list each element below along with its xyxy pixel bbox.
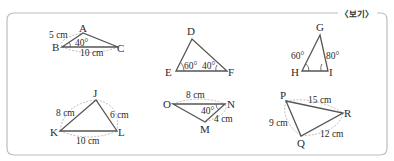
side-jl: 6 cm	[110, 110, 129, 120]
triangle-def: D E F 60° 40°	[165, 25, 234, 78]
vertex-e: E	[165, 66, 172, 78]
side-pq: 9 cm	[269, 118, 288, 128]
vertex-n: N	[227, 98, 235, 110]
vertex-f: F	[228, 66, 234, 78]
side-jk: 8 cm	[56, 108, 75, 118]
vertex-o: O	[163, 98, 171, 110]
side-qr: 12 cm	[320, 129, 344, 139]
vertex-g: G	[316, 21, 324, 33]
vertex-m: M	[200, 123, 210, 135]
side-pr: 15 cm	[308, 95, 332, 105]
triangle-jkl: J K L 8 cm 6 cm 10 cm	[50, 87, 129, 146]
vertex-p: P	[280, 89, 286, 101]
angle-f: 40°	[202, 61, 216, 71]
vertex-h: H	[291, 66, 299, 78]
triangle-ghi: G H I 60° 80°	[291, 21, 340, 78]
vertex-l: L	[118, 126, 125, 138]
vertex-b: B	[52, 41, 59, 53]
example-box: 〈보기〉 A B C 5 cm 40° 10 cm D E F 60° 40° …	[0, 0, 394, 161]
angle-e: 60°	[184, 61, 198, 71]
box-label: 〈보기〉	[340, 9, 374, 19]
side-ab: 5 cm	[49, 30, 68, 40]
angle-i: 80°	[326, 51, 340, 61]
side-bc: 10 cm	[80, 48, 104, 58]
angle-h: 60°	[291, 51, 305, 61]
vertex-i: I	[329, 66, 333, 78]
vertex-d: D	[187, 25, 195, 37]
triangle-pqr: P Q R 15 cm 9 cm 12 cm	[269, 89, 352, 149]
vertex-j: J	[93, 87, 98, 99]
vertex-c: C	[117, 42, 124, 54]
angle-b: 40°	[75, 38, 89, 48]
angle-n: 40°	[201, 106, 215, 116]
side-on: 8 cm	[186, 90, 205, 100]
side-mn: 4 cm	[214, 114, 233, 124]
triangle-omn: O N M 8 cm 40° 4 cm	[163, 90, 235, 135]
vertex-a: A	[79, 22, 87, 34]
side-kl: 10 cm	[76, 136, 100, 146]
triangle-abc: A B C 5 cm 40° 10 cm	[49, 22, 124, 58]
vertex-r: R	[344, 107, 352, 119]
vertex-k: K	[50, 126, 58, 138]
vertex-q: Q	[297, 137, 305, 149]
